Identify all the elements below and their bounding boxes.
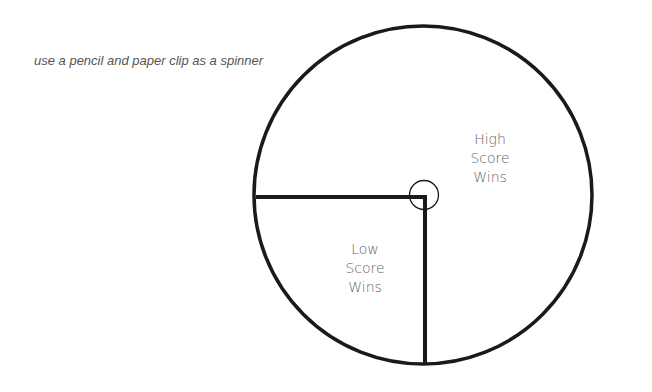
label-line: Wins [335, 278, 395, 297]
label-line: Low [335, 240, 395, 259]
spinner-diagram [0, 0, 652, 392]
label-line: Score [335, 259, 395, 278]
label-line: High [460, 130, 520, 149]
section-label-low: Low Score Wins [335, 240, 395, 297]
label-line: Wins [460, 168, 520, 187]
section-label-high: High Score Wins [460, 130, 520, 187]
label-line: Score [460, 149, 520, 168]
